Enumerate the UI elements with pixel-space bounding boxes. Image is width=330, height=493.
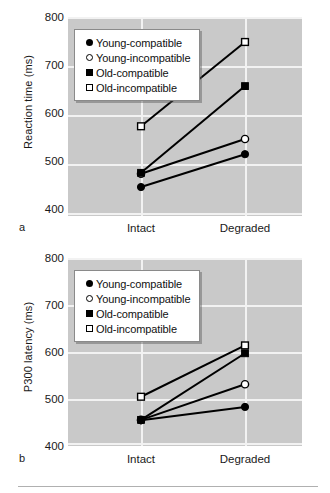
- data-point-old-incompatible-degraded: [242, 342, 249, 349]
- data-point-young-compatible-degraded: [241, 151, 248, 158]
- panel-b-xtick-intact: Intact: [127, 453, 155, 465]
- panel-b-legend-label-3: Old-incompatible: [96, 323, 177, 335]
- data-point-old-compatible-degraded: [242, 83, 249, 90]
- panel-b-ytick-800: 800: [30, 253, 64, 265]
- panel-a-legend-label-3: Old-incompatible: [96, 82, 177, 94]
- panel-b-legend: Young-compatible Young-incompatible Old-…: [74, 270, 200, 342]
- data-point-old-compatible-intact: [138, 169, 145, 176]
- series-old-incompatible: [138, 342, 249, 400]
- panel-b-legend-row-young-compatible: Young-compatible: [82, 276, 190, 291]
- data-point-old-incompatible-intact: [138, 393, 145, 400]
- panel-b-letter: b: [19, 452, 25, 464]
- panel-b-xtick-degraded: Degraded: [220, 453, 271, 465]
- panel-b-legend-row-young-incompatible: Young-incompatible: [82, 291, 190, 306]
- panel-b-ytick-700: 700: [30, 300, 64, 312]
- filled-square-icon: [82, 310, 96, 317]
- open-square-icon: [82, 84, 96, 91]
- panel-a-ytick-600: 600: [30, 108, 64, 120]
- panel-b-legend-row-old-incompatible: Old-incompatible: [82, 321, 190, 336]
- figure-container: Reaction time (ms) 800 700 600 500 400 I…: [0, 0, 330, 493]
- panel-b-ytick-500: 500: [30, 394, 64, 406]
- panel-a-xtick-intact: Intact: [127, 222, 155, 234]
- open-square-icon: [82, 325, 96, 332]
- panel-a-legend: Young-compatible Young-incompatible Old-…: [74, 29, 200, 101]
- panel-a: Reaction time (ms) 800 700 600 500 400 I…: [0, 0, 330, 248]
- panel-a-legend-label-0: Young-compatible: [96, 37, 182, 49]
- data-point-young-compatible-degraded: [241, 403, 248, 410]
- panel-b-ytick-400: 400: [30, 441, 64, 453]
- series-line: [141, 139, 245, 174]
- panel-b-legend-label-1: Young-incompatible: [96, 293, 190, 305]
- panel-b-legend-label-0: Young-compatible: [96, 278, 182, 290]
- data-point-young-incompatible-degraded: [241, 135, 248, 142]
- panel-a-ytick-500: 500: [30, 156, 64, 168]
- panel-a-legend-row-old-incompatible: Old-incompatible: [82, 80, 190, 95]
- panel-a-ytick-700: 700: [30, 60, 64, 72]
- panel-a-legend-label-1: Young-incompatible: [96, 52, 190, 64]
- open-circle-icon: [82, 54, 96, 61]
- series-young-compatible: [137, 403, 248, 424]
- data-point-old-incompatible-degraded: [242, 39, 249, 46]
- panel-a-letter: a: [19, 221, 25, 233]
- data-point-old-compatible-intact: [138, 416, 145, 423]
- panel-a-xtick-degraded: Degraded: [220, 222, 271, 234]
- panel-a-legend-row-old-compatible: Old-compatible: [82, 65, 190, 80]
- data-point-old-incompatible-intact: [138, 123, 145, 130]
- data-point-young-compatible-intact: [137, 183, 144, 190]
- panel-b-legend-row-old-compatible: Old-compatible: [82, 306, 190, 321]
- panel-b-ytick-600: 600: [30, 347, 64, 359]
- data-point-old-compatible-degraded: [242, 350, 249, 357]
- panel-b-legend-label-2: Old-compatible: [96, 308, 169, 320]
- footer-divider: [18, 486, 318, 487]
- open-circle-icon: [82, 295, 96, 302]
- filled-circle-icon: [82, 39, 96, 46]
- panel-a-y-tick-labels: 800 700 600 500 400: [28, 0, 64, 248]
- panel-a-legend-row-young-incompatible: Young-incompatible: [82, 50, 190, 65]
- series-old-compatible: [138, 350, 249, 423]
- panel-b-y-tick-labels: 800 700 600 500 400: [28, 245, 64, 493]
- panel-a-ytick-800: 800: [30, 12, 64, 24]
- panel-a-legend-row-young-compatible: Young-compatible: [82, 35, 190, 50]
- panel-a-legend-label-2: Old-compatible: [96, 67, 169, 79]
- panel-b: P300 latency (ms) 800 700 600 500 400 In…: [0, 245, 330, 493]
- panel-a-ytick-400: 400: [30, 204, 64, 216]
- filled-circle-icon: [82, 280, 96, 287]
- filled-square-icon: [82, 69, 96, 76]
- data-point-young-incompatible-degraded: [241, 381, 248, 388]
